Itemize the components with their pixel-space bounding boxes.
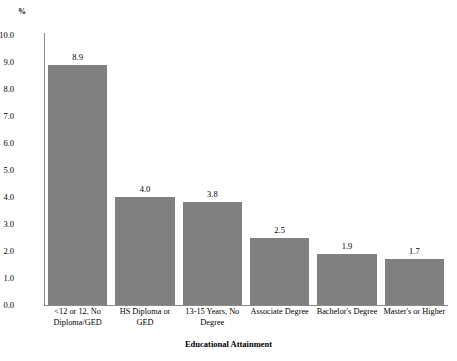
x-axis-tick-label: Master's or Higher — [381, 307, 448, 318]
bar-slot: 8.9 — [44, 0, 111, 305]
bar — [385, 259, 444, 305]
x-axis-tick-label: Bachelor's Degree — [313, 307, 380, 318]
bar-value-label: 4.0 — [111, 185, 178, 194]
bar-slot: 2.5 — [246, 0, 313, 305]
y-axis-tick-label: 5.0 — [0, 166, 14, 175]
bar-slot: 1.9 — [313, 0, 380, 305]
bar-value-label: 8.9 — [44, 53, 111, 62]
x-axis-tick-label: 13-15 Years, No Degree — [179, 307, 246, 328]
x-axis-title: Educational Attainment — [0, 340, 457, 349]
y-axis-tick-label: 3.0 — [0, 220, 14, 229]
y-axis-tick-label: 7.0 — [0, 112, 14, 121]
x-axis-tick-label: HS Diploma or GED — [111, 307, 178, 328]
bars-container: 8.94.03.82.51.91.7 — [44, 0, 448, 305]
bar-value-label: 1.9 — [313, 242, 380, 251]
bar — [48, 65, 107, 305]
bar-chart: % 10.09.08.07.06.05.04.03.02.01.00.0 8.9… — [0, 0, 457, 361]
y-axis-tick-label: 4.0 — [0, 193, 14, 202]
x-axis-tick-labels: <12 or 12, No Diploma/GEDHS Diploma or G… — [44, 307, 448, 335]
y-axis-tick-label: 10.0 — [0, 31, 14, 40]
bar — [183, 202, 242, 305]
x-axis-tick-label: <12 or 12, No Diploma/GED — [44, 307, 111, 328]
y-axis-tick-labels: 10.09.08.07.06.05.04.03.02.01.00.0 — [0, 0, 44, 361]
y-axis-tick-label: 9.0 — [0, 58, 14, 67]
bar-value-label: 2.5 — [246, 226, 313, 235]
bar-value-label: 3.8 — [179, 190, 246, 199]
y-axis-tick-label: 8.0 — [0, 85, 14, 94]
x-axis-tick-label: Associate Degree — [246, 307, 313, 318]
bar — [317, 254, 376, 305]
bar — [250, 238, 309, 306]
bar — [115, 197, 174, 305]
bar-slot: 4.0 — [111, 0, 178, 305]
y-axis-tick-label: 0.0 — [0, 301, 14, 310]
y-axis-tick-label: 6.0 — [0, 139, 14, 148]
y-axis-tick-label: 2.0 — [0, 247, 14, 256]
bar-slot: 3.8 — [179, 0, 246, 305]
bar-slot: 1.7 — [381, 0, 448, 305]
y-axis-tick-label: 1.0 — [0, 274, 14, 283]
x-axis-line — [44, 305, 448, 306]
bar-value-label: 1.7 — [381, 247, 448, 256]
